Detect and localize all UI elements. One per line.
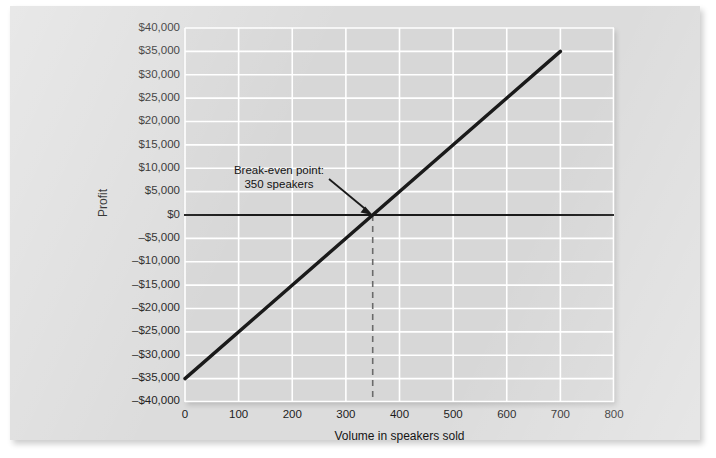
y-tick-label: –$40,000: [106, 395, 180, 406]
x-tick-label: 200: [262, 408, 322, 420]
figure-panel: $40,000 $35,000 $30,000 $25,000 $20,000 …: [10, 6, 700, 440]
y-tick-label: $0: [106, 209, 180, 220]
y-tick-label: $30,000: [106, 69, 180, 80]
y-tick-label: –$15,000: [106, 279, 180, 290]
x-tick-label: 500: [423, 408, 483, 420]
chart-canvas: [185, 28, 614, 402]
x-tick-label: 400: [370, 408, 430, 420]
y-tick-label: –$20,000: [106, 302, 180, 313]
plot-area: [185, 28, 614, 402]
y-tick-label: $25,000: [106, 92, 180, 103]
x-tick-label: 0: [155, 408, 215, 420]
x-tick-label: 600: [477, 408, 537, 420]
y-tick-label: –$5,000: [106, 232, 180, 243]
y-tick-label: $5,000: [106, 185, 180, 196]
x-axis-title: Volume in speakers sold: [185, 429, 614, 443]
x-tick-label: 100: [209, 408, 269, 420]
y-tick-label: $40,000: [106, 22, 180, 33]
y-axis-tick-labels: $40,000 $35,000 $30,000 $25,000 $20,000 …: [106, 6, 180, 440]
y-tick-label: –$30,000: [106, 349, 180, 360]
y-axis-title: Profit: [96, 183, 110, 223]
break-even-arrow: [329, 179, 373, 215]
y-tick-label: $15,000: [106, 139, 180, 150]
break-even-annotation: Break-even point: 350 speakers: [224, 164, 334, 191]
x-tick-label: 300: [316, 408, 376, 420]
y-tick-label: $35,000: [106, 45, 180, 56]
x-axis-tick-labels: 0 100 200 300 400 500 600 700 800: [185, 408, 614, 426]
break-even-annotation-line1: Break-even point:: [224, 164, 334, 178]
y-tick-label: –$25,000: [106, 325, 180, 336]
x-tick-label: 700: [530, 408, 590, 420]
y-tick-label: –$35,000: [106, 372, 180, 383]
break-even-annotation-line2: 350 speakers: [224, 178, 334, 192]
x-tick-label: 800: [584, 408, 644, 420]
y-tick-label: –$10,000: [106, 255, 180, 266]
y-tick-label: $10,000: [106, 162, 180, 173]
y-tick-label: $20,000: [106, 115, 180, 126]
